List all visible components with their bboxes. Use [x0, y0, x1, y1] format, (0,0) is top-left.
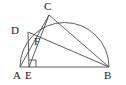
segment-chord-cb [49, 15, 109, 67]
point-label-c: C [44, 1, 51, 12]
point-label-e: E [25, 70, 32, 81]
point-label-b: B [104, 70, 111, 81]
segment-altitude-de [28, 32, 29, 67]
point-label-f: F [34, 36, 40, 47]
geometry-figure: A B C D E F [0, 0, 126, 85]
point-label-d: D [11, 25, 19, 36]
point-label-a: A [13, 70, 21, 81]
